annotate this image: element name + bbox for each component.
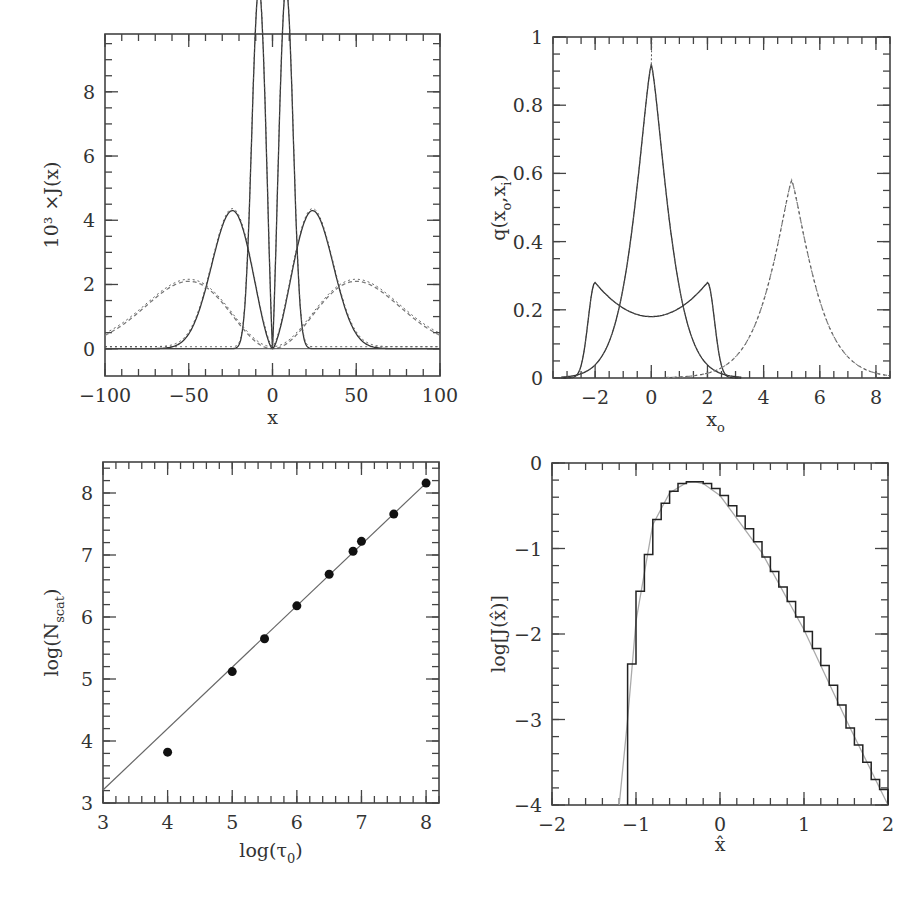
tr-xtick-label: 6 (814, 386, 826, 408)
tl-ytick-label: 8 (83, 81, 95, 103)
tl-xtick-label: 0 (266, 384, 278, 406)
tl-ytick-label: 6 (83, 145, 95, 167)
tr-curve-1 (561, 283, 741, 379)
br-xtick-label: −1 (622, 813, 650, 835)
bl-xtick-label: 6 (291, 811, 303, 833)
bl-ytick-label: 5 (81, 668, 93, 690)
tr-xlabel: xo (706, 408, 725, 435)
tr-ytick-label: 0.8 (513, 94, 543, 116)
br-ytick-label: −4 (514, 794, 542, 816)
tr-xtick-label: 2 (701, 386, 713, 408)
tl-xtick-label: −100 (79, 384, 131, 406)
tl-curve-1 (105, 211, 440, 349)
br-xtick-label: 2 (882, 813, 894, 835)
br-ylabel: log[J(x̂)] (487, 595, 509, 673)
bl-ytick-label: 4 (81, 730, 93, 752)
br-xtick-label: 1 (798, 813, 810, 835)
bl-xtick-label: 7 (355, 811, 367, 833)
br-frame (552, 463, 888, 805)
tr-xtick-label: 0 (645, 386, 657, 408)
br-ytick-label: −3 (514, 709, 542, 731)
tr-ytick-label: 0.4 (513, 231, 543, 253)
br-ticks (552, 463, 888, 805)
bl-data-point (422, 479, 431, 488)
tr-frame (553, 37, 890, 378)
bl-data-point (163, 748, 172, 757)
br-xtick-label: 0 (714, 813, 726, 835)
tl-ticks (105, 34, 440, 376)
tr-xtick-label: 8 (870, 386, 882, 408)
bl-xlabel: log(τ0) (239, 839, 302, 866)
bl-data-point (349, 547, 358, 556)
tr-curve-analytic-1 (561, 283, 741, 379)
tl-xtick-label: −50 (169, 384, 209, 406)
tl-frame (105, 34, 440, 376)
br-ytick-label: −2 (514, 623, 542, 645)
tl-ylabel: 10³ ×J(x) (40, 162, 62, 249)
tl-curve-analytic-1 (105, 209, 440, 347)
tl-xtick-label: 100 (422, 384, 458, 406)
bl-xtick-label: 3 (97, 811, 109, 833)
bl-data-point (357, 537, 366, 546)
bl-xtick-label: 8 (420, 811, 432, 833)
bl-ticks (103, 462, 439, 803)
bl-xtick-label: 4 (162, 811, 174, 833)
bl-data-point (292, 601, 301, 610)
tr-ylabel: q(xo,xi) (487, 174, 514, 240)
panel-nscat-vs-tau: 345678345678log(τ0)log(Nscat) (40, 462, 439, 866)
tr-ytick-label: 1 (531, 26, 543, 48)
bl-data-point (389, 510, 398, 519)
tr-ytick-label: 0.2 (513, 299, 543, 321)
tr-ytick-label: 0.6 (513, 162, 543, 184)
tr-curve-2 (665, 180, 890, 377)
tr-curve-analytic-2 (665, 180, 890, 377)
tl-xlabel: x (267, 406, 278, 428)
bl-data-point (228, 667, 237, 676)
tr-ytick-label: 0 (531, 367, 543, 389)
bl-data-point (325, 570, 334, 579)
tr-ticks (553, 37, 890, 378)
bl-ytick-label: 8 (81, 482, 93, 504)
figure-caption-fragment (14, 886, 914, 902)
panel-jx-profile: −100−5005010002468x10³ ×J(x) (40, 0, 458, 428)
br-histogram (628, 482, 888, 805)
br-ytick-label: −1 (514, 538, 542, 560)
tl-xtick-label: 50 (344, 384, 368, 406)
tl-ytick-label: 0 (83, 338, 95, 360)
bl-xtick-label: 5 (226, 811, 238, 833)
figure-canvas: −100−5005010002468x10³ ×J(x) −20246800.2… (0, 0, 918, 902)
bl-ytick-label: 3 (81, 792, 93, 814)
tl-ytick-label: 2 (83, 273, 95, 295)
tr-xtick-label: −2 (581, 386, 609, 408)
br-ytick-label: 0 (530, 452, 542, 474)
br-xtick-label: −2 (538, 813, 566, 835)
tr-curve-0 (561, 64, 741, 377)
tl-curve-analytic-0 (105, 0, 440, 347)
bl-ylabel: log(Nscat) (40, 588, 67, 676)
br-xlabel: x̂ (715, 833, 726, 855)
tr-curve-analytic-0 (561, 64, 741, 377)
bl-frame (103, 462, 439, 803)
tl-ytick-label: 4 (83, 209, 95, 231)
bl-data-point (260, 634, 269, 643)
tr-xtick-label: 4 (758, 386, 770, 408)
bl-ytick-label: 7 (81, 544, 93, 566)
panel-redistribution-function: −20246800.20.40.60.81xoq(xo,xi) (487, 26, 890, 435)
bl-ytick-label: 6 (81, 606, 93, 628)
panel-log-jx-hat: −2−1012−4−3−2−10x̂log[J(x̂)] (487, 452, 894, 855)
